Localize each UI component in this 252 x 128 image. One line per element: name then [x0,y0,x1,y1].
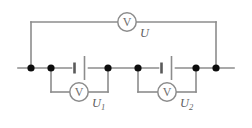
junction-dot-6 [212,64,219,71]
battery-cell-one [75,56,85,80]
junction-dot-4 [134,64,141,71]
junction-dot-2 [47,64,54,71]
junction-dot-5 [192,64,199,71]
voltmeter-second-label: U2 [180,96,194,112]
voltmeter-total-glyph: V [123,15,132,29]
junction-dot-3 [104,64,111,71]
top-voltmeter-branch: V U [31,13,216,68]
voltmeter-first-label-sub: 1 [101,102,105,112]
battery-cell-two [162,56,172,80]
voltmeter-second-glyph: V [163,85,172,99]
junction-dot-1 [27,64,34,71]
circuit-diagram-canvas: V U V U1 [0,0,252,128]
voltmeter-first-glyph: V [75,85,84,99]
circuit-schematic: V U V U1 [0,0,252,128]
voltmeter-second-label-sub: 2 [189,102,194,112]
second-voltmeter-branch: V U2 [138,68,196,112]
voltmeter-first-label: U1 [92,96,105,112]
first-voltmeter-branch: V U1 [51,68,108,112]
voltmeter-total-label: U [140,26,150,40]
